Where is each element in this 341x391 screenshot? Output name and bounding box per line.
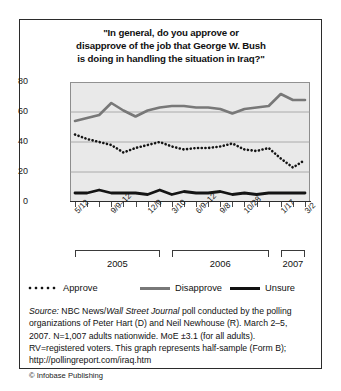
copyright-notice: © Infobase Publishing — [29, 371, 103, 380]
chart-canvas — [70, 82, 310, 202]
year-bracket — [281, 250, 305, 257]
source-label: Source: — [29, 306, 59, 316]
chart-title-line-1: "In general, do you approve or — [30, 27, 312, 40]
legend-label: Disapprove — [175, 283, 222, 293]
x-axis-labels: 5/129/9–1212/93/106/9–129/810/281/173/2 — [0, 206, 341, 240]
year-bracket — [75, 250, 160, 257]
year-label-2005: 2005 — [75, 258, 160, 269]
legend-label: Approve — [63, 283, 98, 293]
chart-title: "In general, do you approve or disapprov… — [30, 27, 312, 66]
chart-title-line-3: is doing in handling the situation in Ir… — [30, 53, 312, 66]
y-tick-20: 20 — [0, 166, 28, 176]
y-tick-40: 40 — [0, 136, 28, 146]
y-tick-60: 60 — [0, 106, 28, 116]
y-tick-0: 0 — [0, 196, 28, 206]
year-bracket — [172, 250, 269, 257]
legend-item-unsure[interactable]: Unsure — [230, 283, 295, 293]
source-italic-1: Wall Street Journal — [106, 306, 179, 316]
year-label-2007: 2007 — [281, 258, 305, 269]
chart-title-line-2: disapprove of the job that George W. Bus… — [30, 40, 312, 53]
legend-swatch-icon — [28, 283, 58, 293]
legend-swatch-icon — [230, 287, 260, 290]
plot-area — [70, 82, 310, 202]
y-tick-80: 80 — [0, 76, 28, 86]
source-note: Source: NBC News/Wall Street Journal pol… — [29, 305, 305, 367]
source-text-1: NBC News/ — [59, 306, 106, 316]
legend-item-approve[interactable]: Approve — [28, 283, 98, 293]
year-label-2006: 2006 — [172, 258, 269, 269]
legend-item-disapprove[interactable]: Disapprove — [140, 283, 222, 293]
legend-swatch-icon — [140, 287, 170, 290]
chart-legend: ApproveDisapproveUnsure — [28, 283, 318, 299]
year-brackets: 200520062007 — [0, 250, 341, 280]
legend-label: Unsure — [265, 283, 295, 293]
chart-figure: "In general, do you approve or disapprov… — [0, 0, 341, 391]
